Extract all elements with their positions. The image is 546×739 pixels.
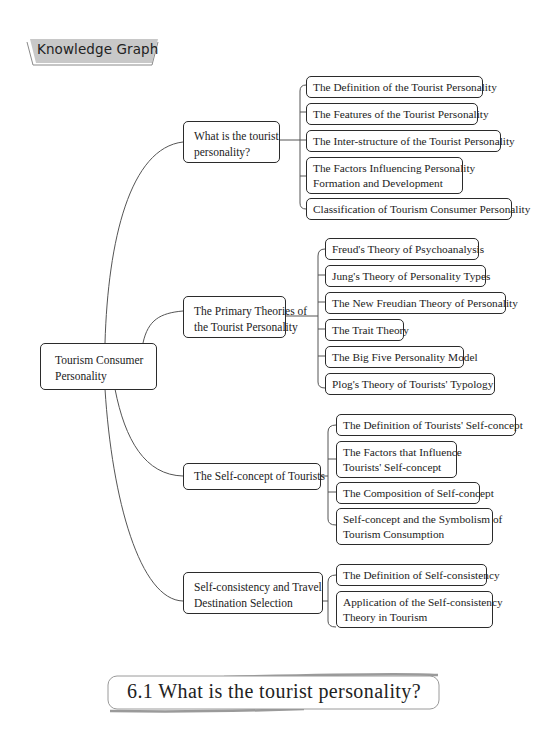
root-node-line-2: Personality — [55, 368, 142, 384]
connector-branch-2-ticks — [318, 275, 325, 356]
leaf-node-trait-theory[interactable]: The Trait Theory — [325, 319, 404, 341]
leaf-node-line: The Definition of Tourists' Self-concept — [343, 418, 509, 433]
leaf-node-line: Formation and Development — [313, 176, 456, 191]
leaf-node-line: Self-concept and the Symbolism of — [343, 512, 486, 527]
leaf-node-inter-structure[interactable]: The Inter-structure of the Tourist Perso… — [306, 130, 501, 152]
leaf-node-line: Freud's Theory of Psychoanalysis — [332, 242, 472, 257]
leaf-node-line: The Features of the Tourist Personality — [313, 107, 471, 122]
leaf-node-line: The Factors Influencing Personality — [313, 161, 456, 176]
section-heading-title: 6.1 What is the tourist personality? — [104, 680, 444, 703]
leaf-node-line: Classification of Tourism Consumer Perso… — [313, 202, 505, 217]
branch-node-line: Self-consistency and Travel — [194, 579, 312, 595]
leaf-node-definition-tourist-personality[interactable]: The Definition of the Tourist Personalit… — [306, 76, 483, 98]
leaf-node-factors-self-concept[interactable]: The Factors that Influence Tourists' Sel… — [336, 441, 457, 478]
leaf-node-symbolism[interactable]: Self-concept and the Symbolism of Touris… — [336, 508, 493, 545]
connector-branch-3-ticks — [328, 459, 336, 492]
branch-node-line: What is the tourist — [194, 128, 269, 144]
leaf-node-factors-influencing[interactable]: The Factors Influencing Personality Form… — [306, 157, 463, 194]
leaf-node-line: The Definition of the Tourist Personalit… — [313, 80, 476, 95]
leaf-node-line: The Big Five Personality Model — [332, 350, 457, 365]
leaf-node-line: The Trait Theory — [332, 323, 397, 338]
leaf-node-line: The Factors that Influence — [343, 445, 450, 460]
leaf-node-line: Plog's Theory of Tourists' Typology — [332, 377, 488, 392]
leaf-node-line: The Definition of Self-consistency — [343, 568, 480, 583]
root-node[interactable]: Tourism Consumer Personality — [40, 343, 157, 390]
branch-node-line: The Primary Theories of — [194, 303, 275, 319]
connector-root-branch-4 — [105, 389, 183, 601]
leaf-node-composition-self-concept[interactable]: The Composition of Self-concept — [336, 482, 480, 504]
leaf-node-definition-self-concept[interactable]: The Definition of Tourists' Self-concept — [336, 414, 516, 436]
branch-node-primary-theories[interactable]: The Primary Theories of the Tourist Pers… — [183, 296, 286, 338]
leaf-node-line: The New Freudian Theory of Personality — [332, 296, 499, 311]
leaf-node-plog-theory[interactable]: Plog's Theory of Tourists' Typology — [325, 373, 495, 395]
leaf-node-features-tourist-personality[interactable]: The Features of the Tourist Personality — [306, 103, 478, 125]
branch-node-what-is-tourist-personality[interactable]: What is the tourist personality? — [183, 121, 280, 163]
branch-node-self-concept[interactable]: The Self-concept of Tourists — [183, 463, 321, 490]
branch-node-self-consistency[interactable]: Self-consistency and Travel Destination … — [183, 572, 323, 614]
leaf-node-line: The Composition of Self-concept — [343, 486, 473, 501]
connector-branch-3-bracket — [328, 425, 336, 525]
leaf-node-jung-theory[interactable]: Jung's Theory of Personality Types — [325, 265, 486, 287]
branch-node-line: personality? — [194, 144, 269, 160]
branch-node-line: The Self-concept of Tourists — [194, 468, 310, 484]
leaf-node-line: The Inter-structure of the Tourist Perso… — [313, 134, 494, 149]
section-heading: 6.1 What is the tourist personality? — [104, 671, 444, 713]
leaf-node-line: Jung's Theory of Personality Types — [332, 269, 479, 284]
leaf-node-line: Tourism Consumption — [343, 527, 486, 542]
connector-root-branch-3 — [115, 389, 183, 476]
connector-root-branch-2 — [143, 311, 183, 343]
connector-branch-4-bracket — [328, 575, 336, 627]
root-node-line-1: Tourism Consumer — [55, 352, 142, 368]
leaf-node-application-self-consistency[interactable]: Application of the Self-consistency Theo… — [336, 591, 493, 628]
branch-node-line: the Tourist Personality — [194, 319, 275, 335]
leaf-node-definition-self-consistency[interactable]: The Definition of Self-consistency — [336, 564, 487, 586]
leaf-node-new-freudian[interactable]: The New Freudian Theory of Personality — [325, 292, 506, 314]
leaf-node-classification[interactable]: Classification of Tourism Consumer Perso… — [306, 198, 512, 220]
branch-node-line: Destination Selection — [194, 595, 312, 611]
connector-branch-2-bracket — [318, 249, 325, 388]
leaf-node-big-five[interactable]: The Big Five Personality Model — [325, 346, 464, 368]
leaf-node-line: Tourists' Self-concept — [343, 460, 450, 475]
leaf-node-freud-theory[interactable]: Freud's Theory of Psychoanalysis — [325, 238, 479, 260]
leaf-node-line: Theory in Tourism — [343, 610, 486, 625]
leaf-node-line: Application of the Self-consistency — [343, 595, 486, 610]
